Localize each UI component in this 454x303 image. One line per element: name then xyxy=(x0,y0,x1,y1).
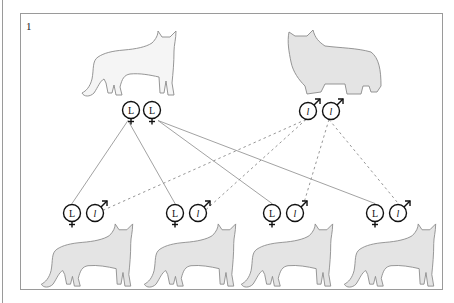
allele-label: L xyxy=(172,208,178,219)
father-allele-1: l xyxy=(300,99,321,120)
mother-allele-1: L xyxy=(123,102,140,125)
paternal-line xyxy=(302,120,330,212)
allele-label: l xyxy=(94,208,97,219)
paternal-line xyxy=(329,120,405,212)
maternal-line xyxy=(128,121,175,204)
maternal-line xyxy=(72,121,128,204)
maternal-line xyxy=(158,121,375,204)
inheritance-diagram: LLllLlLlLlLl xyxy=(0,0,454,303)
kitten-4-cat xyxy=(344,224,435,287)
kitten-1-paternal-allele: l xyxy=(87,201,108,222)
allele-label: L xyxy=(149,105,155,116)
father-allele-2: l xyxy=(323,99,344,120)
maternal-line xyxy=(158,121,272,204)
kitten-3-paternal-allele: l xyxy=(287,201,308,222)
father-cat xyxy=(288,30,381,94)
allele-label: l xyxy=(307,106,310,117)
allele-symbols: LLllLlLlLlLl xyxy=(64,99,411,228)
allele-label: L xyxy=(69,208,75,219)
cat-silhouettes xyxy=(41,30,435,287)
allele-label: l xyxy=(397,208,400,219)
allele-label: L xyxy=(269,208,275,219)
kitten-3-cat xyxy=(241,224,332,287)
allele-label: L xyxy=(128,105,134,116)
mother-allele-2: L xyxy=(144,102,161,125)
kitten-4-paternal-allele: l xyxy=(390,201,411,222)
kitten-4-maternal-allele: L xyxy=(367,205,384,228)
allele-label: l xyxy=(197,208,200,219)
connection-lines xyxy=(72,120,405,212)
kitten-1-maternal-allele: L xyxy=(64,205,81,228)
allele-label: l xyxy=(330,106,333,117)
allele-label: l xyxy=(294,208,297,219)
mother-cat xyxy=(82,31,176,96)
kitten-2-paternal-allele: l xyxy=(190,201,211,222)
kitten-2-maternal-allele: L xyxy=(167,205,184,228)
kitten-3-maternal-allele: L xyxy=(264,205,281,228)
allele-label: L xyxy=(372,208,378,219)
kitten-1-cat xyxy=(41,224,132,287)
kitten-2-cat xyxy=(144,224,235,287)
